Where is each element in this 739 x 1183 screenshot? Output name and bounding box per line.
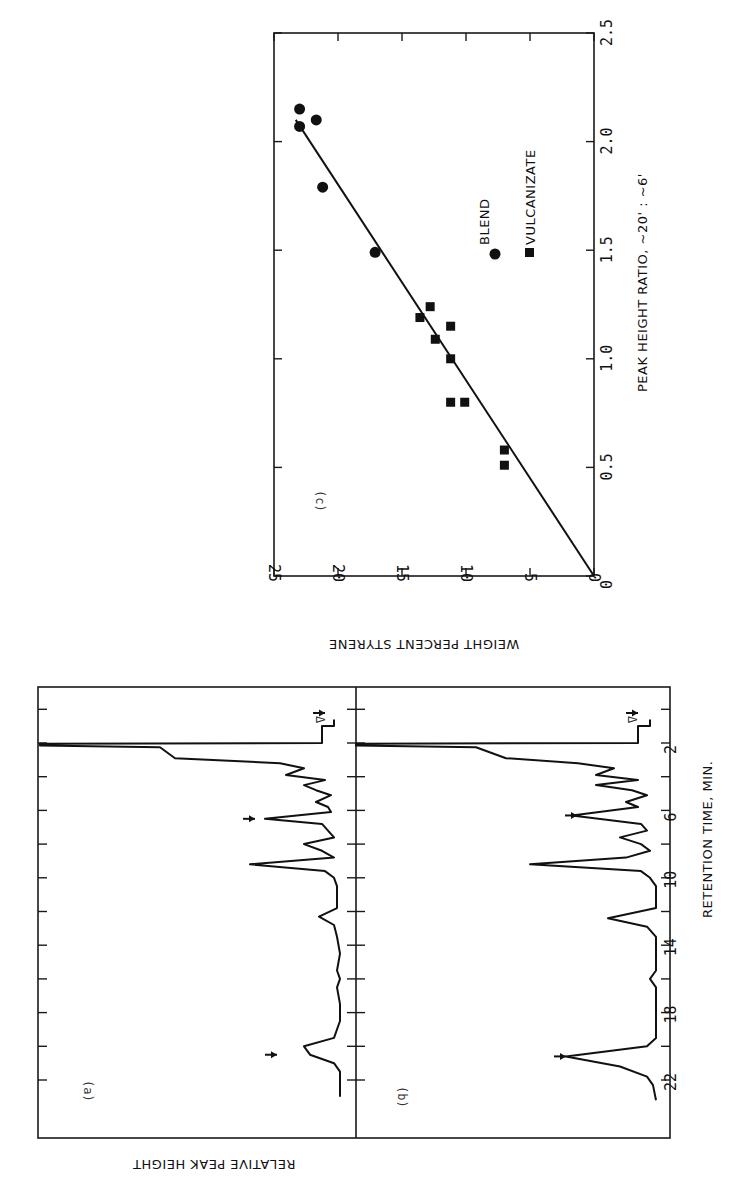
delta-marker-a: Δ [313, 716, 327, 724]
vulcanizate-point [500, 461, 509, 470]
regression-line [296, 120, 594, 576]
legend-square-icon [525, 248, 534, 257]
figure: 00.51.01.52.02.50510152025 (c) BLEND VUL… [0, 0, 739, 1183]
vulcanizate-point [460, 398, 469, 407]
time-tick-label: 22 [662, 1073, 680, 1091]
y-tick-label: 10 [457, 564, 475, 582]
time-axis-labels: 2610141822 [662, 745, 680, 1091]
x-axis-title-c: PEAK HEIGHT RATIO, ~20' : ~6' [635, 173, 650, 392]
vulcanizate-point [431, 335, 440, 344]
blend-point [311, 114, 322, 125]
arrowhead-icon [571, 812, 577, 819]
arrowhead-icon [271, 1051, 277, 1058]
y-tick-label: 15 [393, 564, 411, 582]
chromatogram-trace-b [356, 719, 656, 1100]
panel-label-c: (c) [313, 490, 327, 512]
arrowhead-icon [560, 1053, 566, 1060]
blend-point [370, 247, 381, 258]
blend-point [294, 121, 305, 132]
vulcanizate-point [415, 313, 424, 322]
arrowhead-icon [249, 815, 255, 822]
y-axis-title-ab: RELATIVE PEAK HEIGHT [133, 1157, 296, 1172]
vulcanizate-point [426, 302, 435, 311]
time-tick-label: 2 [662, 745, 680, 754]
panel-label-a: (a) [81, 1080, 95, 1102]
data-points [294, 104, 509, 470]
panel-label-b: (b) [395, 1086, 409, 1108]
x-tick-label: 2.0 [598, 128, 616, 155]
legend: BLEND VULCANIZATE [477, 149, 538, 259]
time-tick-label: 18 [662, 1006, 680, 1024]
vulcanizate-point [446, 354, 455, 363]
time-tick-label: 6 [662, 812, 680, 821]
x-tick-label: 1.5 [598, 236, 616, 263]
delta-marker-b: Δ [625, 716, 639, 724]
legend-circle-icon [490, 249, 501, 260]
x-tick-label: 2.5 [598, 19, 616, 46]
legend-label-vulcanizate: VULCANIZATE [523, 149, 538, 245]
blend-point [294, 104, 305, 115]
x-tick-label: 0.5 [598, 453, 616, 480]
y-tick-label: 20 [329, 564, 347, 582]
scatter-plot-c: 00.51.01.52.02.50510152025 (c) BLEND VUL… [265, 19, 650, 652]
chromatogram-panels: 2610141822 (a) (b) Δ Δ RETENTION TIME, M… [38, 687, 715, 1172]
vulcanizate-point [500, 446, 509, 455]
blend-point [317, 182, 328, 193]
x-tick-label: 1.0 [598, 345, 616, 372]
x-axis-title-ab: RETENTION TIME, MIN. [700, 761, 715, 918]
chromatogram-trace-a [40, 719, 340, 1096]
time-tick-label: 10 [662, 871, 680, 889]
peak-arrows [243, 710, 638, 1060]
time-axis-ticks [38, 709, 670, 1080]
legend-label-blend: BLEND [477, 198, 492, 245]
y-tick-label: 5 [521, 573, 539, 582]
time-tick-label: 14 [662, 938, 680, 956]
y-axis-title-c: WEIGHT PERCENT STYRENE [329, 637, 520, 652]
vulcanizate-point [446, 398, 455, 407]
vulcanizate-point [446, 322, 455, 331]
y-tick-label: 25 [265, 564, 283, 582]
chromatogram-frame [38, 687, 670, 1138]
